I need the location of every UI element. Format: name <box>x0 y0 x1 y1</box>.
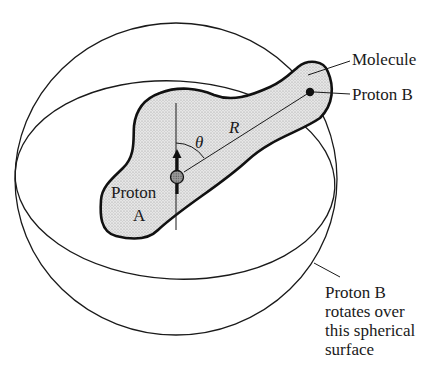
sphere-caption: Proton B rotates over this spherical sur… <box>325 283 415 359</box>
proton-a-label-line1: Proton <box>111 183 156 202</box>
theta-label: θ <box>195 133 203 152</box>
proton-a-sphere <box>171 171 184 184</box>
sphere-leader-line <box>314 263 340 277</box>
sphere-caption-line: surface <box>325 340 415 359</box>
sphere-caption-line: rotates over <box>325 302 415 321</box>
sphere-caption-line: this spherical <box>325 321 415 340</box>
proton-b-label: Proton B <box>352 85 413 104</box>
molecule-label: Molecule <box>352 50 416 69</box>
distance-r-label: R <box>229 118 239 137</box>
dipolar-coupling-diagram: Molecule Proton B Proton A θ R Proton B … <box>0 0 446 384</box>
sphere-caption-line: Proton B <box>325 283 415 302</box>
proton-b-dot <box>306 88 314 96</box>
proton-a-label-line2: A <box>133 206 145 225</box>
